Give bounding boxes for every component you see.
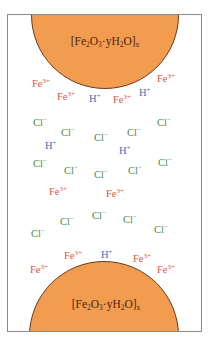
hydrogen-ion: H+ — [101, 249, 113, 261]
iron-ion: Fe3+ — [133, 253, 151, 265]
hydrogen-ion: H+ — [139, 87, 151, 99]
iron-ion: Fe3+ — [32, 78, 50, 90]
chloride-ion: Cl− — [33, 117, 47, 129]
chloride-ion: Cl− — [158, 157, 172, 169]
hydrogen-ion: H+ — [45, 140, 57, 152]
iron-ion: Fe3+ — [157, 264, 175, 276]
chloride-ion: Cl− — [33, 158, 47, 170]
chloride-ion: Cl− — [60, 216, 74, 228]
chloride-ion: Cl− — [64, 165, 78, 177]
chloride-ion: Cl− — [127, 127, 141, 139]
iron-ion: Fe3+ — [49, 186, 67, 198]
iron-ion: Fe3+ — [57, 91, 75, 103]
chloride-ion: Cl− — [94, 132, 108, 144]
chloride-ion: Cl− — [61, 127, 75, 139]
chloride-ion: Cl− — [154, 224, 168, 236]
iron-ion: Fe3+ — [30, 264, 48, 276]
rust-formula-label-bottom: [Fe2O3·yH2O]x — [72, 299, 141, 312]
chloride-ion: Cl− — [92, 210, 106, 222]
chloride-ion: Cl− — [123, 214, 137, 226]
iron-ion: Fe3+ — [157, 73, 175, 85]
chloride-ion: Cl− — [31, 228, 45, 240]
iron-ion: Fe3+ — [106, 188, 124, 200]
iron-ion: Fe3+ — [64, 250, 82, 262]
chloride-ion: Cl− — [128, 165, 142, 177]
iron-ion: Fe3+ — [113, 94, 131, 106]
hydrogen-ion: H+ — [119, 145, 131, 157]
chloride-ion: Cl− — [157, 117, 171, 129]
chloride-ion: Cl− — [94, 169, 108, 181]
rust-formula-label-top: [Fe2O3·yH2O]x — [71, 36, 140, 49]
hydrogen-ion: H+ — [89, 93, 101, 105]
